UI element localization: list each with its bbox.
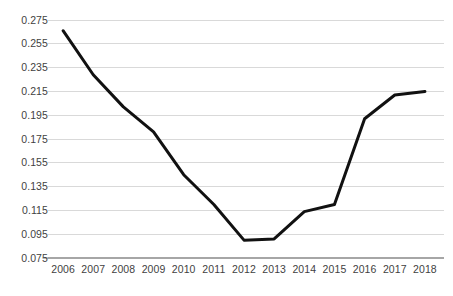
x-tick-label: 2016: [350, 264, 380, 275]
x-tick-label: 2007: [78, 264, 108, 275]
x-tick-label: 2013: [259, 264, 289, 275]
x-tick-label: 2018: [410, 264, 440, 275]
x-tick-label: 2015: [319, 264, 349, 275]
x-tick-label: 2011: [199, 264, 229, 275]
x-axis-tick-labels: 2006200720082009201020112012201320142015…: [0, 0, 453, 296]
x-tick-label: 2014: [289, 264, 319, 275]
x-tick-label: 2008: [108, 264, 138, 275]
x-tick-label: 2009: [138, 264, 168, 275]
x-tick-label: 2012: [229, 264, 259, 275]
x-tick-label: 2006: [48, 264, 78, 275]
line-chart: 0.0750.0950.1150.1350.1550.1750.1950.215…: [0, 0, 453, 296]
x-tick-label: 2017: [380, 264, 410, 275]
x-tick-label: 2010: [169, 264, 199, 275]
